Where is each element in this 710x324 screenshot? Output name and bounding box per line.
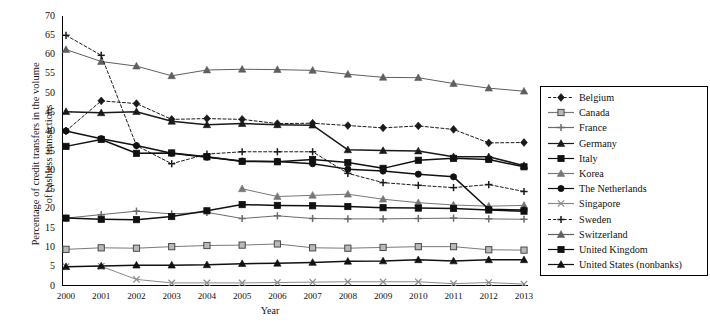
x-tick-2001: 2001 (81, 291, 121, 301)
y-tick-50: 50 (29, 87, 55, 98)
legend-label: Germany (576, 138, 617, 149)
legend-marker-icon (546, 106, 576, 119)
legend-item-italy[interactable]: Italy (546, 151, 703, 166)
line-chart-canvas (62, 16, 528, 286)
y-tick-45: 45 (29, 106, 55, 117)
legend-item-sweden[interactable]: Sweden (546, 212, 703, 227)
y-tick-0: 0 (29, 280, 55, 291)
legend-marker-icon (546, 167, 576, 180)
legend-label: Singapore (576, 198, 620, 209)
legend-label: Canada (576, 107, 610, 118)
x-tick-2005: 2005 (222, 291, 262, 301)
legend-label: United States (nonbanks) (576, 259, 682, 270)
legend-label: Switzerland (576, 229, 628, 240)
x-tick-2007: 2007 (293, 291, 333, 301)
chart-legend: BelgiumCanadaFranceGermanyItalyKoreaThe … (540, 86, 708, 276)
y-tick-70: 70 (29, 10, 55, 21)
y-tick-40: 40 (29, 125, 55, 136)
x-tick-2002: 2002 (116, 291, 156, 301)
legend-item-the-netherlands[interactable]: The Netherlands (546, 181, 703, 196)
x-axis-title: Year (0, 305, 540, 316)
series-belgium (63, 97, 528, 147)
y-tick-35: 35 (29, 145, 55, 156)
legend-marker-icon (546, 182, 576, 195)
legend-label: The Netherlands (576, 183, 647, 194)
y-tick-65: 65 (29, 29, 55, 40)
y-tick-20: 20 (29, 202, 55, 213)
x-tick-2003: 2003 (152, 291, 192, 301)
series-switzerland (62, 46, 527, 94)
series-sweden (62, 32, 527, 195)
legend-label: Italy (576, 153, 598, 164)
x-tick-2000: 2000 (46, 291, 86, 301)
series-france (62, 208, 527, 223)
y-tick-55: 55 (29, 67, 55, 78)
x-tick-2004: 2004 (187, 291, 227, 301)
series-singapore (63, 263, 527, 286)
legend-label: Belgium (576, 92, 614, 103)
series-the-netherlands (63, 128, 527, 213)
series-united-states-nonbanks (62, 256, 527, 270)
legend-marker-icon (546, 152, 576, 165)
legend-marker-icon (546, 197, 576, 210)
legend-item-canada[interactable]: Canada (546, 105, 703, 120)
x-tick-2012: 2012 (469, 291, 509, 301)
legend-marker-icon (546, 121, 576, 134)
legend-label: United Kingdom (576, 244, 648, 255)
legend-item-belgium[interactable]: Belgium (546, 90, 703, 105)
legend-label: Korea (576, 168, 604, 179)
y-tick-25: 25 (29, 183, 55, 194)
series-canada (63, 241, 527, 253)
legend-marker-icon (546, 91, 576, 104)
legend-item-korea[interactable]: Korea (546, 166, 703, 181)
x-tick-2013: 2013 (504, 291, 544, 301)
y-tick-10: 10 (29, 241, 55, 252)
legend-item-singapore[interactable]: Singapore (546, 196, 703, 211)
x-tick-2011: 2011 (434, 291, 474, 301)
legend-label: France (576, 122, 607, 133)
y-tick-60: 60 (29, 48, 55, 59)
legend-marker-icon (546, 213, 576, 226)
x-tick-2009: 2009 (363, 291, 403, 301)
legend-label: Sweden (576, 214, 611, 225)
x-tick-2006: 2006 (257, 291, 297, 301)
legend-item-united-states-nonbanks[interactable]: United States (nonbanks) (546, 257, 703, 272)
chart-figure: Percentage of credit transfers in the vo… (0, 0, 710, 324)
series-germany (62, 108, 527, 169)
y-tick-30: 30 (29, 164, 55, 175)
legend-marker-icon (546, 228, 576, 241)
y-tick-5: 5 (29, 260, 55, 271)
legend-item-france[interactable]: France (546, 120, 703, 135)
y-tick-15: 15 (29, 222, 55, 233)
x-tick-2010: 2010 (398, 291, 438, 301)
legend-item-germany[interactable]: Germany (546, 136, 703, 151)
legend-marker-icon (546, 258, 576, 271)
legend-item-united-kingdom[interactable]: United Kingdom (546, 242, 703, 257)
legend-marker-icon (546, 137, 576, 150)
plot-area (62, 16, 528, 286)
x-tick-2008: 2008 (328, 291, 368, 301)
series-united-kingdom (63, 136, 527, 171)
legend-marker-icon (546, 243, 576, 256)
legend-item-switzerland[interactable]: Switzerland (546, 227, 703, 242)
